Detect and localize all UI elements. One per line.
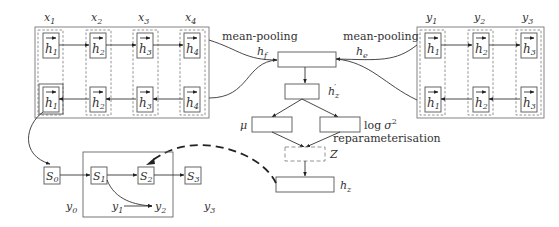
mu-label: μ — [240, 119, 247, 132]
decoder-state-s0: S0 — [44, 167, 60, 184]
hz-prime-label: hz′ — [328, 82, 340, 100]
target-backward-pool-curve — [336, 59, 417, 100]
mu-to-z-arrow — [272, 132, 304, 147]
target-col-label-2: y2 — [473, 11, 485, 26]
target-pooling-label: mean-pooling — [343, 30, 419, 43]
target-backward-cell-3: h3 — [521, 87, 537, 112]
mu-box — [252, 117, 292, 132]
latent-dashed-arrowhead-icon — [146, 158, 155, 165]
source-forward-cell-1: h1 — [43, 33, 59, 58]
target-col-label-1: y1 — [425, 11, 437, 26]
z-label: Z — [329, 148, 338, 161]
source-backward-cell-2: h2 — [90, 87, 106, 112]
hz-prime-box — [285, 84, 319, 99]
target-forward-cell-1: h1 — [425, 33, 441, 58]
source-backward-cell-1: h1 — [43, 87, 59, 112]
logvar-label: logσ2 — [364, 117, 397, 132]
source-forward-cell-3: h3 — [137, 33, 153, 58]
source-col-label-4: x4 — [185, 11, 196, 26]
vae-seq2seq-diagram: x1 x2 x3 x4 h1 h2 h3 h4 — [0, 0, 559, 227]
z-sample-box — [285, 147, 325, 161]
source-encoder: x1 x2 x3 x4 h1 h2 h3 h4 — [35, 11, 209, 118]
source-forward-cell-4: h4 — [184, 33, 200, 58]
source-col-label-3: x3 — [138, 11, 149, 26]
source-col-label-2: x2 — [91, 11, 102, 26]
decoder-output-y3: y3 — [203, 200, 215, 215]
encoder-to-s0-curve — [28, 112, 50, 164]
hz-prime-to-mu-arrow — [272, 99, 302, 117]
decoder-output-y1: y1 — [111, 200, 123, 215]
decoder-state-s1: S1 — [91, 167, 107, 184]
decoder-state-s2: S2 — [138, 167, 154, 184]
target-col-label-3: y3 — [521, 11, 533, 26]
target-pooled-label: he — [356, 45, 368, 60]
hz-prime-to-logvar-arrow — [302, 99, 338, 117]
hz-label: hz — [340, 179, 352, 194]
source-backward-pool-curve — [209, 60, 277, 98]
decoder-state-s3: S3 — [185, 167, 201, 184]
hz-box — [276, 177, 334, 192]
target-backward-cell-2: h2 — [473, 87, 489, 112]
decoder-output-y0: y0 — [65, 200, 77, 215]
target-backward-cell-1: h1 — [425, 87, 441, 112]
source-pooling-label: mean-pooling — [222, 30, 298, 43]
source-pooled-label: hf — [257, 45, 269, 60]
target-forward-cell-2: h2 — [473, 33, 489, 58]
source-encoder-frame — [35, 27, 209, 118]
source-col-label-1: x1 — [44, 11, 55, 26]
target-forward-pool-curve — [336, 45, 417, 60]
target-encoder: y1 y2 y3 h1 h2 h3 h1 — [417, 11, 544, 118]
reparameterisation-label: reparameterisation — [333, 132, 441, 145]
decoder-output-y2: y2 — [154, 200, 166, 215]
target-forward-cell-3: h3 — [521, 33, 537, 58]
logvar-box — [320, 117, 360, 132]
latent-to-decoder-dashed-curve — [150, 145, 276, 183]
source-backward-cell-4: h4 — [184, 87, 200, 112]
source-backward-cell-3: h3 — [137, 87, 153, 112]
source-forward-cell-2: h2 — [90, 33, 106, 58]
concat-box — [278, 52, 336, 67]
